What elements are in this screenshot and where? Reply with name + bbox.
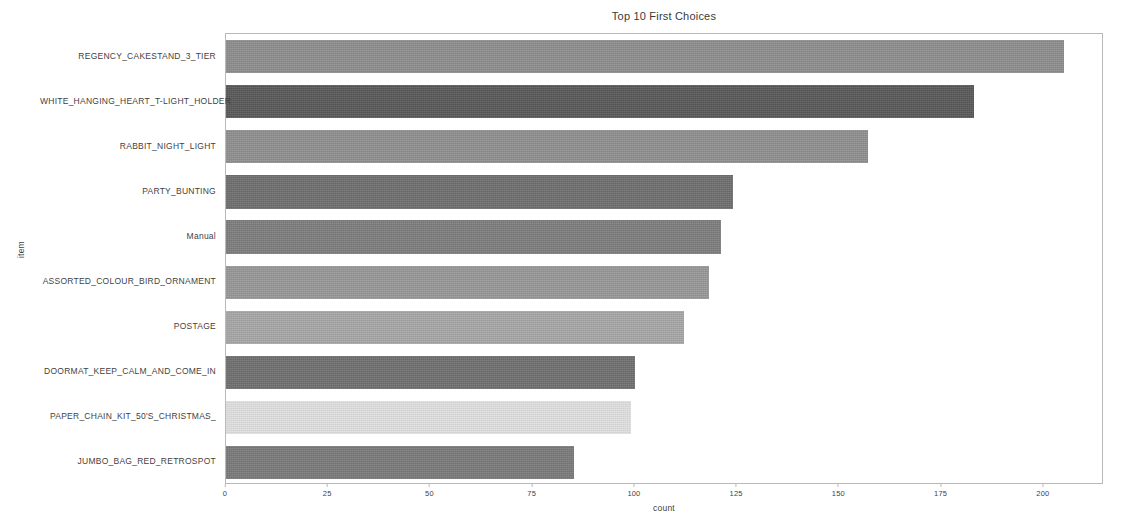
y-axis-tick-label: WHITE_HANGING_HEART_T-LIGHT_HOLDER: [40, 96, 216, 106]
x-axis-tick: 100: [627, 484, 640, 498]
x-axis-tick-label: 125: [730, 489, 743, 498]
y-axis-tick-label: REGENCY_CAKESTAND_3_TIER: [40, 51, 216, 61]
tick-mark: [736, 484, 737, 487]
x-axis-tick-label: 25: [323, 489, 332, 498]
tick-mark: [940, 484, 941, 487]
x-axis-tick-label: 50: [425, 489, 434, 498]
tick-mark: [531, 484, 532, 487]
x-axis-tick-label: 175: [934, 489, 947, 498]
tick-mark: [1042, 484, 1043, 487]
x-axis-tick: 75: [527, 484, 536, 498]
x-axis-label: count: [225, 503, 1103, 513]
y-axis-tick-label: DOORMAT_KEEP_CALM_AND_COME_IN: [40, 366, 216, 376]
x-axis-tick-label: 150: [832, 489, 845, 498]
x-axis-tick: 50: [425, 484, 434, 498]
y-axis-tick-label: ASSORTED_COLOUR_BIRD_ORNAMENT: [40, 276, 216, 286]
chart-title: Top 10 First Choices: [225, 10, 1103, 22]
tick-mark: [838, 484, 839, 487]
tick-mark: [225, 484, 226, 487]
y-axis-tick-label: PARTY_BUNTING: [40, 186, 216, 196]
x-axis-tick-label: 100: [627, 489, 640, 498]
x-axis-tick: 150: [832, 484, 845, 498]
x-axis-tick: 125: [730, 484, 743, 498]
x-axis-tick: 0: [223, 484, 227, 498]
tick-mark: [633, 484, 634, 487]
chart-figure: Top 10 First Choices REGENCY_CAKESTAND_3…: [0, 0, 1138, 525]
x-axis-tick: 175: [934, 484, 947, 498]
tick-mark: [327, 484, 328, 487]
y-axis-label: item: [16, 241, 26, 258]
x-axis-tick-label: 200: [1036, 489, 1049, 498]
y-axis-tick-labels: REGENCY_CAKESTAND_3_TIERWHITE_HANGING_HE…: [0, 33, 1138, 484]
y-axis-tick-label: PAPER_CHAIN_KIT_50'S_CHRISTMAS_: [40, 411, 216, 421]
x-axis-tick: 25: [323, 484, 332, 498]
y-axis-tick-label: JUMBO_BAG_RED_RETROSPOT: [40, 456, 216, 466]
x-axis-tick-label: 0: [223, 489, 227, 498]
tick-mark: [429, 484, 430, 487]
x-axis-tick: 200: [1036, 484, 1049, 498]
y-axis-tick-label: RABBIT_NIGHT_LIGHT: [40, 141, 216, 151]
y-axis-tick-label: POSTAGE: [40, 321, 216, 331]
x-axis-tick-label: 75: [527, 489, 536, 498]
y-axis-tick-label: Manual: [40, 231, 216, 241]
